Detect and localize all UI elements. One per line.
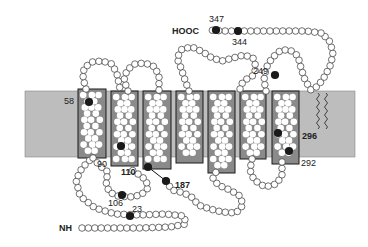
helix-tm6 xyxy=(240,91,266,159)
marked-residue-344 xyxy=(234,27,242,35)
residue-label-292: 292 xyxy=(301,158,316,168)
helix-tm4 xyxy=(176,91,203,163)
marked-residue-292 xyxy=(285,147,293,155)
residue-label-90: 90 xyxy=(97,159,107,169)
residue-label-110: 110 xyxy=(121,167,136,177)
residue-label-344: 344 xyxy=(232,37,247,47)
receptor-topology-diagram: 347344249581109018710623296292 NH HOOC xyxy=(0,0,368,247)
c-terminus-label: HOOC xyxy=(172,26,200,36)
helix-tm2 xyxy=(111,91,138,166)
helix-tm3 xyxy=(143,91,171,169)
residue-label-106: 106 xyxy=(108,198,123,208)
residue-label-23: 23 xyxy=(132,204,142,214)
helix-tm5 xyxy=(208,91,235,173)
marked-residue-347 xyxy=(212,26,220,34)
residue-label-58: 58 xyxy=(64,96,74,106)
residue-label-187: 187 xyxy=(175,180,190,190)
residue-label-347: 347 xyxy=(209,14,224,24)
marked-residue-187 xyxy=(162,177,170,185)
marked-residue-249 xyxy=(271,71,279,79)
n-terminus-label: NH xyxy=(59,223,72,233)
residue-label-296: 296 xyxy=(302,131,317,141)
marked-residue-296 xyxy=(274,129,282,137)
residue-label-249: 249 xyxy=(253,66,268,76)
marked-residue-58 xyxy=(85,98,93,106)
cysteine-residue xyxy=(144,163,152,171)
marked-residue-110 xyxy=(117,142,125,150)
